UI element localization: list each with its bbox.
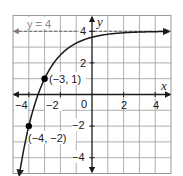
asymptote-label: y = 4	[27, 18, 51, 30]
point-neg3-1	[41, 76, 47, 82]
point-label-neg3-1: (−3, 1)	[49, 73, 81, 85]
x-axis-label: x	[160, 78, 167, 93]
origin-label: 0	[81, 98, 87, 110]
x-tick-neg2: −2	[46, 99, 59, 111]
exponential-curve	[19, 32, 168, 176]
y-tick-2: 2	[80, 57, 86, 69]
y-tick-4: 4	[80, 25, 86, 37]
x-tick-2: 2	[121, 99, 127, 111]
x-tick-4: 4	[153, 99, 159, 111]
coordinate-plane: y = 4 y x 4 2 −2 −4 −4 −2 2 4 0 (−3, 1) …	[0, 0, 183, 176]
x-tick-neg4: −4	[15, 99, 28, 111]
y-tick-neg2: −2	[72, 119, 85, 131]
y-tick-neg4: −4	[72, 151, 85, 163]
point-label-neg4-neg2: (−4, −2)	[28, 132, 67, 144]
y-axis-label: y	[95, 14, 103, 29]
point-neg4-neg2	[26, 123, 32, 129]
